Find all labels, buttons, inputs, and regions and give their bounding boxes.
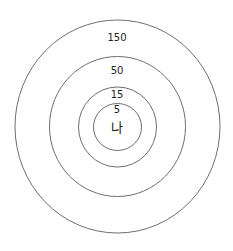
center-label: 나	[111, 121, 123, 134]
ring-label-15: 15	[111, 90, 124, 100]
ring-label-50: 50	[111, 66, 124, 76]
ring-label-150: 150	[107, 33, 126, 43]
ring-label-5: 5	[114, 105, 120, 115]
